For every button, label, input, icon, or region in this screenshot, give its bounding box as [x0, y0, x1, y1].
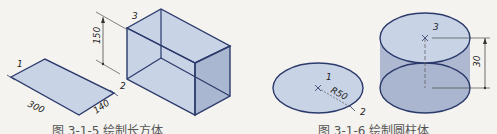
caption-fig-3-1-6: 图 3-1-6 绘制圆柱体: [318, 123, 429, 134]
caption-fig-3-1-5: 图 3-1-5 绘制长方体: [52, 123, 163, 134]
dimension-length: 300: [26, 99, 46, 115]
label-point-3: 3: [132, 11, 138, 21]
dimension-cylinder-height: 30: [472, 55, 482, 67]
dimension-height: 150: [92, 27, 102, 44]
label-point-3-cylinder: 3: [433, 22, 439, 32]
label-circle-center-1: 1: [326, 72, 332, 82]
figures-canvas: 1 300 140 150 3 2 图 3-1-5 绘制长方体 1 R50 2: [0, 0, 497, 134]
label-point-2-circle: 2: [360, 107, 366, 117]
cylinder-solid: [380, 13, 470, 113]
box-solid: [127, 9, 230, 115]
label-point-2: 2: [120, 81, 126, 91]
label-point-1: 1: [17, 59, 23, 69]
ellipse-base: [273, 63, 363, 113]
